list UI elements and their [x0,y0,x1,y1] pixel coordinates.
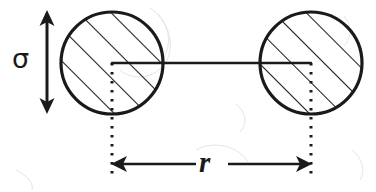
double-headed-horizontal-arrow-icon [111,156,312,172]
sigma-diameter-label: σ [12,45,29,72]
hard-sphere-diagram: σ r [0,0,376,192]
double-headed-vertical-arrow-icon [40,10,55,114]
r-separation-label: r [199,148,210,177]
diagram-canvas [0,0,376,192]
